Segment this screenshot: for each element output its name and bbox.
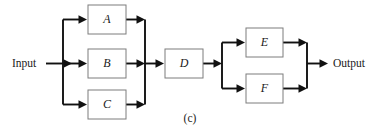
wire-a-to-merge [126,15,145,23]
block-c: C [88,90,126,119]
block-a-label: A [102,12,111,26]
wire-bus-to-a [63,15,87,23]
input-label: Input [12,57,37,70]
block-f-label: F [260,81,269,95]
block-d-label: D [179,56,189,70]
wire-d-to-split2 [203,59,222,67]
output-label: Output [333,57,366,70]
block-e: E [246,28,283,57]
block-diagram-figure: A B C D E F Input Output (c) [0,0,378,135]
wire-bus-to-e [222,38,245,46]
block-diagram-canvas: A B C D E F Input Output (c) [0,0,378,135]
block-b-label: B [103,56,111,70]
block-b: B [88,49,126,78]
block-d: D [165,49,203,78]
wire-c-to-merge [126,100,145,108]
figure-caption: (c) [184,112,197,125]
wire-f-to-merge [283,84,307,92]
block-f: F [246,74,283,103]
wire-e-to-merge [283,38,307,46]
wire-b-to-merge [126,59,145,67]
wire-merge-to-d [145,59,164,67]
block-e-label: E [260,35,269,49]
wire-bus-to-b [63,59,87,67]
wire-bus-to-c [63,100,87,108]
wire-merge-to-output [307,59,328,67]
wire-bus-to-f [222,84,245,92]
block-a: A [88,5,126,34]
block-c-label: C [103,97,112,111]
